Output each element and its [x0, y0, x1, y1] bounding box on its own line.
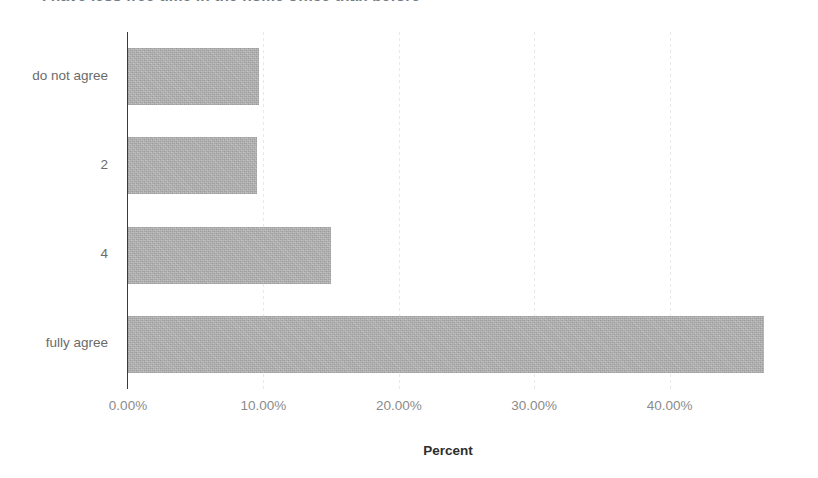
bar[interactable] — [128, 48, 259, 105]
y-axis-tick-label: 4 — [0, 246, 108, 261]
chart-title: I have less free time in the home office… — [42, 0, 742, 5]
x-axis-tick-label: 10.00% — [203, 398, 323, 413]
y-axis-tick-label: 2 — [0, 157, 108, 172]
x-axis-tick-label: 20.00% — [339, 398, 459, 413]
bar[interactable] — [128, 137, 257, 194]
bar[interactable] — [128, 227, 331, 284]
x-axis-tick-label: 40.00% — [610, 398, 730, 413]
y-axis-tick-label: do not agree — [0, 68, 108, 83]
plot-area — [128, 32, 786, 389]
y-axis-tick-label: fully agree — [0, 335, 108, 350]
x-axis-tick-label: 30.00% — [474, 398, 594, 413]
x-axis-title: Percent — [128, 443, 768, 458]
x-axis-tick-label: 0.00% — [68, 398, 188, 413]
bar[interactable] — [128, 316, 764, 373]
